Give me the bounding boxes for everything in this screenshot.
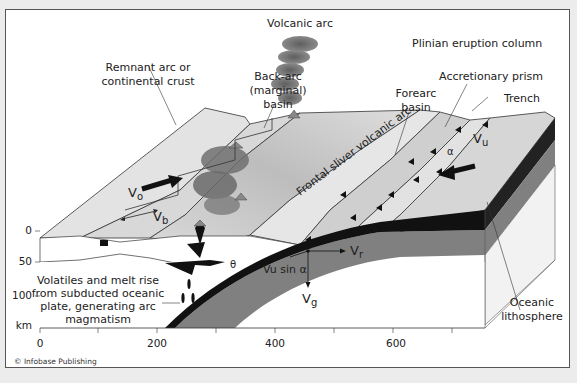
depth-axis: 0 50 100 km — [12, 224, 40, 331]
svg-text:b: b — [162, 215, 168, 226]
distance-axis — [40, 328, 452, 333]
svg-text:V: V — [350, 243, 359, 258]
svg-text:0: 0 — [25, 224, 32, 236]
svg-text:o: o — [137, 191, 143, 202]
x-tick-200: 200 — [147, 337, 167, 349]
label-accretionary-prism: Accretionary prism — [439, 70, 543, 83]
label-volcanic-arc: Volcanic arc — [267, 17, 333, 30]
label-oceanic-1: Oceanic — [510, 296, 554, 309]
label-volatiles-3: plate, generating arc — [40, 300, 156, 313]
x-tick-400: 400 — [265, 337, 285, 349]
svg-text:50: 50 — [19, 255, 32, 267]
svg-text:V: V — [128, 185, 137, 200]
credit-text: © Infobase Publishing — [14, 357, 97, 366]
label-volatiles-1: Volatiles and melt rise — [37, 274, 159, 287]
svg-text:g: g — [311, 297, 317, 308]
label-back-arc-1: Back-arc — [254, 70, 302, 83]
svg-text:V: V — [473, 131, 482, 146]
label-plinian-column: Plinian eruption column — [412, 37, 542, 50]
svg-text:V: V — [302, 291, 311, 306]
label-forearc-1: Forearc — [396, 87, 437, 100]
x-tick-0: 0 — [37, 337, 44, 349]
angle-theta: θ — [230, 259, 236, 270]
x-tick-600: 600 — [386, 337, 406, 349]
svg-text:100: 100 — [12, 289, 32, 301]
angle-alpha: α — [447, 146, 454, 157]
label-back-arc-3: basin — [263, 98, 293, 111]
svg-text:u: u — [482, 137, 488, 148]
label-remnant-arc-1: Remnant arc or — [106, 61, 191, 74]
svg-text:V: V — [153, 209, 162, 224]
label-oceanic-2: lithosphere — [501, 310, 563, 323]
subduction-diagram: Volcanic arc Plinian eruption column Rem… — [0, 0, 577, 383]
vector-label-vu-sin-alpha: Vu sin α — [263, 263, 307, 276]
label-volatiles-2: from subducted oceanic — [32, 287, 165, 300]
label-remnant-arc-2: continental crust — [101, 75, 195, 88]
label-volatiles-4: magmatism — [65, 313, 131, 326]
label-trench: Trench — [503, 92, 540, 105]
label-back-arc-2: (marginal) — [249, 84, 306, 97]
svg-text:km: km — [16, 319, 32, 331]
